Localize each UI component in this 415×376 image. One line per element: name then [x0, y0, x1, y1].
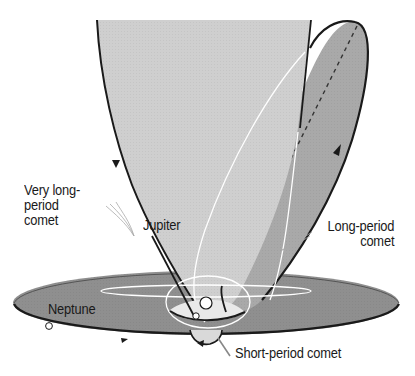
label-short-period-comet: Short-period comet: [235, 346, 341, 361]
short-period-leader: [218, 338, 230, 356]
very-long-period-direction-arrow: [112, 160, 120, 168]
neptune-direction-arrow: [121, 338, 128, 343]
comet-orbits-diagram: Very long- period comet Jupiter Long-per…: [0, 0, 415, 376]
label-long-period-comet: Long-period comet: [317, 219, 394, 249]
sun-icon: [200, 297, 212, 309]
jupiter-icon: [193, 313, 199, 319]
label-neptune: Neptune: [48, 302, 95, 317]
label-very-long-period-comet: Very long- period comet: [24, 183, 80, 228]
label-jupiter: Jupiter: [143, 218, 180, 233]
comet-tail-very-long: [106, 202, 134, 236]
neptune-icon: [46, 323, 53, 330]
